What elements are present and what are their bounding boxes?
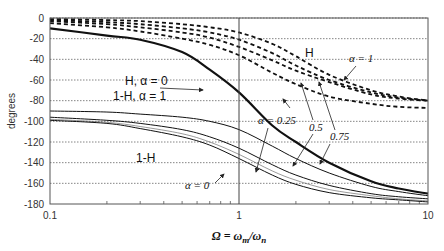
a075-label: 0.75 [330,130,350,142]
y-tick-label: -160 [24,178,44,189]
h-alpha0-arrow [160,88,203,90]
alpha1-arrow [344,66,356,80]
alpha025-arrow-down [256,128,268,172]
y-tick-label: 0 [38,13,44,24]
h-alpha0-label: H, α = 0 [125,74,168,88]
y-axis-ticks: 0-20-40-60-80-100-120-140-160-180 [24,13,44,210]
phase-chart: 0-20-40-60-80-100-120-140-160-180 0.1110… [0,0,444,251]
alpha025-arrow-up [283,99,290,108]
y-tick-label: -20 [30,33,45,44]
alpha0-label: α = 0 [185,179,210,191]
alpha0-arrow [215,174,224,183]
y-axis-label: degrees [6,93,17,129]
y-tick-label: -60 [30,75,45,86]
y-tick-label: -120 [24,137,44,148]
a05-label: 0.5 [309,121,323,133]
h-label: H [305,46,314,60]
y-tick-label: -180 [24,199,44,210]
y-tick-label: -100 [24,116,44,127]
alpha1-label: α = 1 [349,52,373,64]
x-tick-label: 10 [422,210,434,221]
x-tick-label: 1 [236,210,242,221]
x-tick-label: 0.1 [43,210,57,221]
oneminush-alpha1-label: 1-H, α = 1 [113,89,167,103]
alpha025-label: α = 0.25 [258,114,296,126]
y-tick-label: -40 [30,54,45,65]
oneminush-label: 1-H [136,151,155,165]
y-tick-label: -140 [24,157,44,168]
x-axis-label: Ω = ωm/ωn [212,229,267,245]
y-tick-label: -80 [30,95,45,106]
